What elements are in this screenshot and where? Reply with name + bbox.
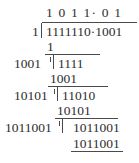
step-bracket-1 (53, 55, 54, 69)
step-bracket-tick-1 (50, 57, 51, 62)
division-bar-main (42, 22, 137, 23)
step-divisor-3: 1011001 (5, 121, 52, 134)
binary-long-division-figure: 1 0 1 1· 0 1 1 1111110·1001 1 1001 1111 … (0, 0, 139, 163)
step-product-3: 10101 (57, 104, 91, 117)
step-bracket-3 (62, 119, 63, 133)
step-divisor-1: 1001 (14, 57, 41, 70)
step-product-2: 1001 (50, 72, 77, 85)
quotient-value: 1 0 1 1· 0 1 (46, 6, 122, 19)
step-remainder-2: 11010 (62, 89, 95, 102)
final-product: 1011001 (73, 137, 120, 150)
divisor-main: 1 (32, 25, 39, 38)
step-remainder-3: 1011001 (73, 121, 120, 134)
step-divisor-2: 10101 (14, 89, 48, 102)
dividend-main: 1111110·1001 (46, 25, 122, 38)
step-product-1: 1 (47, 40, 54, 53)
step-bracket-tick-3 (59, 121, 60, 126)
division-bracket-main (41, 23, 42, 38)
step-bracket-tick-2 (54, 89, 55, 94)
step-remainder-1: 1111 (58, 57, 84, 70)
step-bracket-2 (57, 87, 58, 101)
final-rule (71, 151, 123, 152)
step-rule-3 (55, 118, 118, 119)
